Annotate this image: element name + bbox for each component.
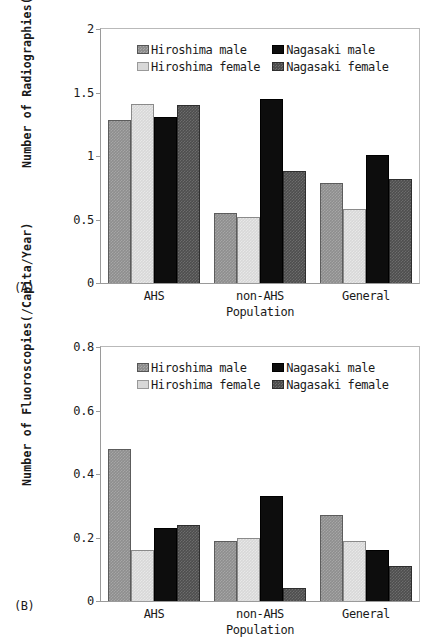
bar-group: General	[313, 29, 419, 283]
panel-a: (A) Number of Radiographies(/Capita/Year…	[0, 0, 446, 317]
panel-a-y-tick-mark	[96, 220, 101, 221]
bar	[320, 183, 343, 283]
panel-b-bar-groups: AHSnon-AHSPopulationGeneral	[101, 347, 419, 601]
panel-a-y-axis-title: Number of Radiographies(/Capita/Year)	[20, 0, 34, 168]
bar-group: non-AHSPopulation	[207, 29, 313, 283]
panel-a-bar-groups: AHSnon-AHSPopulationGeneral	[101, 29, 419, 283]
panel-b-y-tick-mark	[96, 347, 101, 348]
bar	[108, 449, 131, 601]
x-tick-label: non-AHS	[236, 289, 284, 303]
bar-group: General	[313, 347, 419, 601]
bar	[283, 588, 306, 601]
bar	[214, 213, 237, 283]
bar	[283, 171, 306, 283]
bar	[214, 541, 237, 601]
bar	[343, 541, 366, 601]
x-tick-label: non-AHS	[236, 607, 284, 621]
bar	[237, 217, 260, 283]
panel-a-x-axis-line	[100, 284, 420, 285]
panel-a-y-tick-mark	[96, 93, 101, 94]
panel-b-y-tick-mark	[96, 538, 101, 539]
bar	[154, 117, 177, 283]
panel-b-y-tick-mark	[96, 411, 101, 412]
bar	[131, 104, 154, 283]
panel-b-x-axis-title: Population	[226, 623, 294, 637]
bar-group: AHS	[101, 347, 207, 601]
bar	[260, 99, 283, 283]
bar	[389, 179, 412, 283]
x-tick-label: AHS	[144, 607, 164, 621]
x-tick-label: General	[342, 289, 390, 303]
panel-b-y-axis-title: Number of Fluoroscopies(/Capita/Year)	[20, 256, 34, 486]
panel-a-plot-area: Hiroshima maleNagasaki maleHiroshima fem…	[100, 28, 420, 284]
panel-a-y-tick-mark	[96, 29, 101, 30]
bar	[366, 550, 389, 601]
x-tick-label: AHS	[144, 289, 164, 303]
bar	[320, 515, 343, 601]
panel-b-letter: (B)	[14, 599, 34, 613]
panel-a-x-axis-title: Population	[226, 305, 294, 319]
bar-group: AHS	[101, 29, 207, 283]
panel-b-plot-area: Hiroshima maleNagasaki maleHiroshima fem…	[100, 346, 420, 602]
panel-b: (B) Number of Fluoroscopies(/Capita/Year…	[0, 318, 446, 635]
bar	[177, 525, 200, 601]
bar	[260, 496, 283, 601]
bar-group: non-AHSPopulation	[207, 347, 313, 601]
bar	[343, 209, 366, 283]
panel-b-y-tick-mark	[96, 474, 101, 475]
bar	[131, 550, 154, 601]
panel-b-y-tick-mark	[96, 601, 101, 602]
bar	[366, 155, 389, 283]
x-tick-label: General	[342, 607, 390, 621]
panel-a-y-tick-mark	[96, 156, 101, 157]
bar	[389, 566, 412, 601]
bar	[108, 120, 131, 283]
bar	[154, 528, 177, 601]
bar	[177, 105, 200, 283]
bar	[237, 538, 260, 602]
